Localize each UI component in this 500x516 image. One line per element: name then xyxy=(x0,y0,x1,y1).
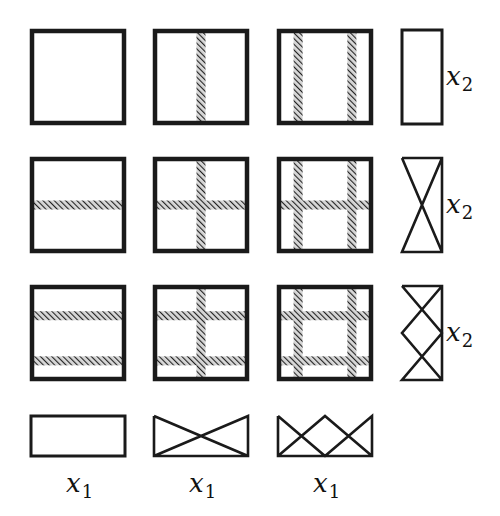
x1-mode-shapes: x1x1x1 xyxy=(31,416,372,502)
x2-mode-3: x2 xyxy=(402,286,473,380)
x1-label: x1 xyxy=(189,468,216,502)
x2-mode-2: x2 xyxy=(402,158,473,252)
panel-border xyxy=(32,31,124,123)
vertical-stiffener xyxy=(294,29,303,125)
panel-grid xyxy=(30,29,373,381)
panel-r2-c3 xyxy=(277,157,373,253)
panel-r2-c1 xyxy=(30,159,126,251)
vertical-stiffener xyxy=(294,285,303,381)
horizontal-stiffener xyxy=(30,311,126,320)
x2-label: x2 xyxy=(446,317,473,351)
panel-r1-c3 xyxy=(279,29,371,125)
x1-mode-1: x1 xyxy=(31,416,125,502)
x1-mode-2: x1 xyxy=(154,416,248,502)
vertical-stiffener xyxy=(347,29,356,125)
horizontal-stiffener xyxy=(277,311,373,320)
x1-mode-3: x1 xyxy=(278,416,372,502)
horizontal-stiffener xyxy=(277,356,373,365)
vertical-stiffener xyxy=(197,29,206,125)
x2-label: x2 xyxy=(446,189,473,223)
horizontal-stiffener xyxy=(30,201,126,210)
horizontal-stiffener xyxy=(30,356,126,365)
horizontal-stiffener xyxy=(277,201,373,210)
x1-label: x1 xyxy=(66,468,93,502)
x2-label: x2 xyxy=(446,61,473,95)
x2-mode-shapes: x2x2x2 xyxy=(402,30,473,380)
stiffener-diagram: x2x2x2 x1x1x1 xyxy=(0,0,500,516)
x1-label: x1 xyxy=(313,468,340,502)
panel-r2-c2 xyxy=(153,157,249,253)
panel-r1-c2 xyxy=(155,29,247,125)
vertical-stiffener xyxy=(197,157,206,253)
vertical-stiffener xyxy=(347,285,356,381)
panel-r3-c1 xyxy=(30,287,126,379)
vertical-stiffener xyxy=(347,157,356,253)
panel-r3-c3 xyxy=(277,285,373,381)
vertical-stiffener xyxy=(294,157,303,253)
panel-r3-c2 xyxy=(153,285,249,381)
panel-r1-c1 xyxy=(32,31,124,123)
panel-border xyxy=(279,31,371,123)
vertical-stiffener xyxy=(197,285,206,381)
x2-mode-1: x2 xyxy=(402,30,473,124)
